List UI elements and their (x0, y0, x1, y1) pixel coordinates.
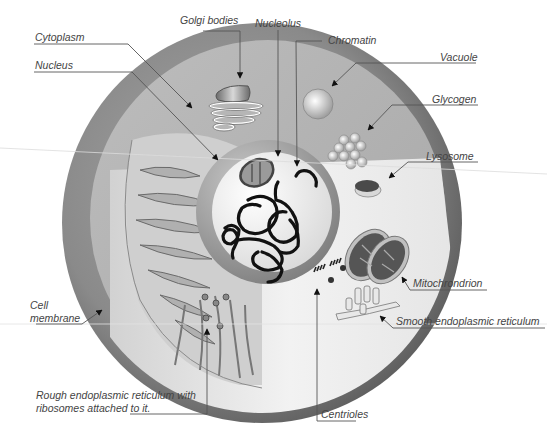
cell-illustration (0, 0, 547, 446)
label-glycogen: Glycogen (432, 93, 476, 105)
cell-diagram: Golgi bodies Nucleolus Chromatin Cytopla… (0, 0, 547, 446)
vacuole (303, 89, 333, 119)
label-mitochondrion: Mitochrondrion (413, 277, 482, 289)
label-vacuole: Vacuole (440, 51, 478, 63)
label-centrioles: Centrioles (321, 408, 368, 420)
label-cell-membrane-line1: Cell (30, 299, 48, 311)
label-cell-membrane-line2: membrane (30, 312, 80, 324)
label-nucleus: Nucleus (35, 59, 73, 71)
label-golgi-bodies: Golgi bodies (180, 14, 238, 26)
label-smooth-er: Smooth endoplasmic reticulum (396, 315, 540, 327)
label-rough-er-line1: Rough endoplasmic reticulum with (36, 389, 196, 401)
label-nucleolus: Nucleolus (255, 17, 301, 29)
label-rough-er-line2: ribosomes attached to it. (36, 402, 150, 414)
label-cytoplasm: Cytoplasm (35, 31, 85, 43)
label-chromatin: Chromatin (328, 34, 376, 46)
label-lysosome: Lysosome (426, 150, 474, 162)
